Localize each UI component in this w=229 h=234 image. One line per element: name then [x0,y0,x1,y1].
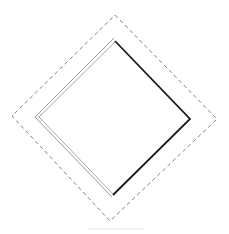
inner-diamond-right-edges [113,41,190,195]
outer-dashed-diamond [12,15,217,221]
diamond-diagram [0,0,229,234]
inner-diamond-left-edges-inner-line [39,42,115,194]
inner-diamond-left-edges-outer-line [35,38,114,197]
inner-diamond [35,38,190,197]
faint-caption [88,228,144,230]
